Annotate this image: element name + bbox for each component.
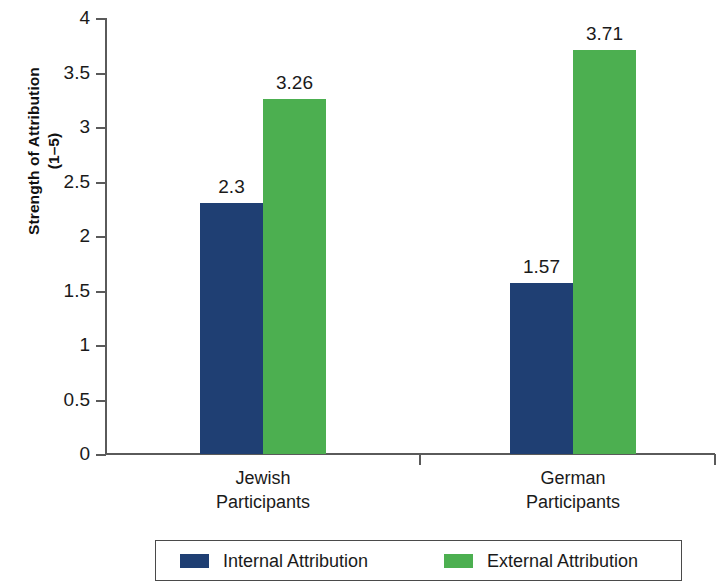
y-axis-title-line2: (1–5) [44, 133, 64, 170]
legend-color-swatch [444, 554, 473, 568]
y-axis-tick-label: 4 [34, 8, 90, 27]
y-axis-tick-label: 0.5 [34, 390, 90, 409]
y-axis-tick-label: 1.5 [34, 281, 90, 300]
bar [573, 50, 636, 454]
bar-chart: Strength of Attribution (1–5) 43.532.521… [0, 0, 721, 584]
y-axis-tick-mark [96, 182, 106, 184]
y-axis-title-line1: Strength of Attribution [24, 67, 44, 235]
y-axis-tick-mark [96, 400, 106, 402]
legend-label: Internal Attribution [223, 550, 368, 572]
legend-label: External Attribution [487, 550, 638, 572]
bar-value-label: 3.26 [251, 73, 338, 92]
x-axis-category-label-line: Jewish [163, 466, 363, 490]
x-axis-category-label-line: Participants [473, 490, 673, 514]
y-axis-tick-label: 1 [34, 335, 90, 354]
bar-value-label: 1.57 [498, 257, 585, 276]
y-axis-tick-mark [96, 73, 106, 75]
y-axis-tick-mark [96, 236, 106, 238]
y-axis-tick-mark [96, 127, 106, 129]
y-axis-tick-mark [96, 291, 106, 293]
y-axis-tick-label: 0 [34, 444, 90, 463]
x-axis-category-label-line: German [473, 466, 673, 490]
legend-entry: External Attribution [444, 550, 638, 572]
x-axis-category-label-line: Participants [163, 490, 363, 514]
x-axis-category-label: JewishParticipants [163, 466, 363, 514]
bar-value-label: 3.71 [561, 24, 648, 43]
y-axis-tick-mark [96, 454, 106, 456]
y-axis-tick-label: 2.5 [34, 172, 90, 191]
bar [510, 283, 573, 454]
x-axis-tick-mark [714, 454, 716, 465]
chart-legend: Internal AttributionExternal Attribution [155, 540, 682, 581]
legend-entry: Internal Attribution [180, 550, 368, 572]
x-axis-category-label: GermanParticipants [473, 466, 673, 514]
bar-value-label: 2.3 [188, 177, 275, 196]
y-axis-tick-label: 3.5 [34, 63, 90, 82]
y-axis-tick-mark [96, 345, 106, 347]
y-axis-tick-label: 2 [34, 226, 90, 245]
legend-color-swatch [180, 554, 209, 568]
y-axis-tick-label: 3 [34, 117, 90, 136]
bar [200, 203, 263, 454]
bar [263, 99, 326, 454]
y-axis-title: Strength of Attribution (1–5) [22, 11, 66, 291]
x-axis-tick-mark [419, 454, 421, 465]
y-axis-tick-mark [96, 18, 106, 20]
